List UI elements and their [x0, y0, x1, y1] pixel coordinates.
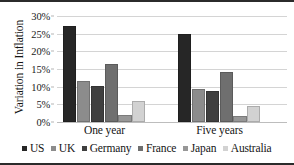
y-tick-mark: [51, 51, 54, 52]
y-tick-label: 5%: [36, 99, 50, 110]
bar-us-one-year[interactable]: [63, 26, 76, 122]
bar-uk-one-year[interactable]: [77, 81, 90, 122]
bar-germany-one-year[interactable]: [91, 86, 104, 122]
bar-japan-one-year[interactable]: [118, 115, 131, 122]
bar-group: [178, 16, 261, 122]
x-category-label: Five years: [196, 124, 243, 136]
y-tick-mark: [51, 69, 54, 70]
plot-inner: [57, 16, 287, 122]
legend-item-japan[interactable]: Japan: [183, 142, 216, 154]
plot-area: [57, 16, 287, 122]
bar-group: [63, 16, 146, 122]
legend-swatch-icon: [82, 146, 87, 151]
bar-australia-five-years[interactable]: [247, 106, 260, 122]
y-tick-label: 10%: [31, 81, 50, 92]
chart-legend: USUKGermanyFranceJapanAustralia: [0, 142, 294, 154]
legend-swatch-icon: [183, 146, 188, 151]
y-tick-mark: [51, 33, 54, 34]
x-category-label: One year: [84, 124, 125, 136]
y-tick-label: 15%: [31, 64, 50, 75]
x-axis-category-labels: One yearFive years: [57, 124, 287, 140]
legend-swatch-icon: [51, 146, 56, 151]
legend-item-australia[interactable]: Australia: [223, 142, 271, 154]
y-tick-label: 30%: [31, 11, 50, 22]
legend-item-france[interactable]: France: [138, 142, 176, 154]
legend-label: US: [30, 142, 44, 154]
bar-france-one-year[interactable]: [105, 64, 118, 122]
gridline-0%: [57, 122, 287, 123]
legend-label: Germany: [90, 142, 132, 154]
legend-swatch-icon: [22, 146, 27, 151]
inflation-variation-bar-chart: Variation in Inflation 0%5%10%15%20%25%3…: [0, 0, 294, 165]
legend-swatch-icon: [138, 146, 143, 151]
y-tick-label: 20%: [31, 46, 50, 57]
legend-label: UK: [59, 142, 75, 154]
bar-us-five-years[interactable]: [178, 34, 191, 122]
bar-australia-one-year[interactable]: [132, 101, 145, 122]
y-tick-mark: [51, 86, 54, 87]
legend-label: Australia: [231, 142, 272, 154]
y-tick-label: 0%: [36, 117, 50, 128]
bar-uk-five-years[interactable]: [192, 89, 205, 122]
legend-item-us[interactable]: US: [22, 142, 44, 154]
legend-label: Japan: [191, 142, 216, 154]
y-axis-tick-labels: 0%5%10%15%20%25%30%: [22, 16, 54, 122]
legend-swatch-icon: [223, 146, 228, 151]
bar-france-five-years[interactable]: [220, 72, 233, 122]
y-tick-mark: [51, 16, 54, 17]
legend-label: France: [146, 142, 176, 154]
y-tick-label: 25%: [31, 28, 50, 39]
bar-japan-five-years[interactable]: [233, 116, 246, 122]
bar-germany-five-years[interactable]: [206, 91, 219, 122]
y-tick-mark: [51, 104, 54, 105]
legend-item-germany[interactable]: Germany: [82, 142, 131, 154]
y-tick-mark: [51, 122, 54, 123]
legend-item-uk[interactable]: UK: [51, 142, 75, 154]
